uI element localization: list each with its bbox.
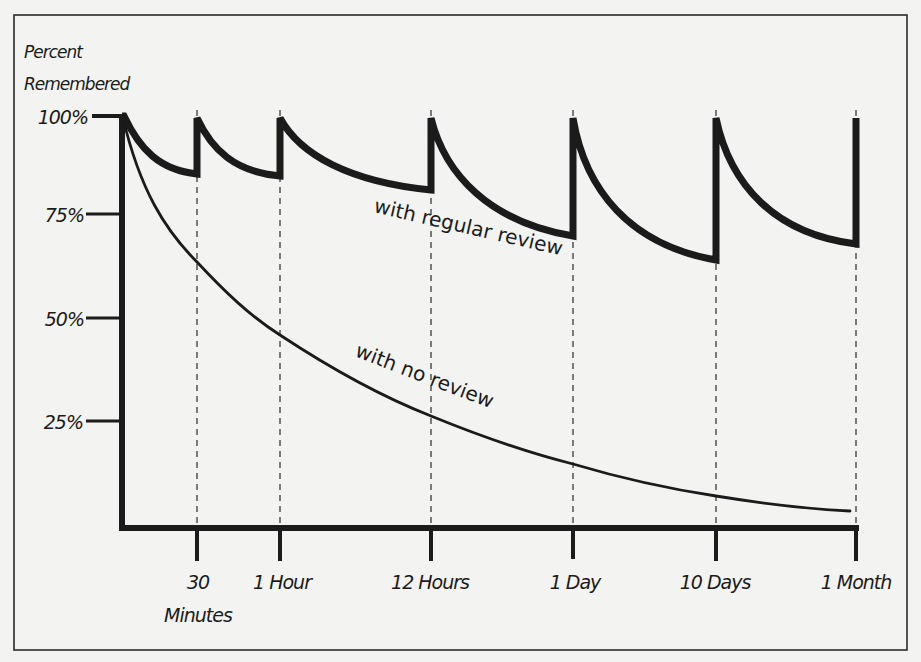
chart-frame: [14, 15, 907, 650]
x-label-12hours: 12 Hours: [391, 571, 470, 593]
x-label-1hour: 1 Hour: [253, 571, 313, 593]
y-axis-title-line1: Percent: [24, 42, 84, 62]
y-label-50: 50%: [45, 308, 84, 330]
y-label-25: 25%: [44, 411, 83, 433]
review-gridlines: [197, 110, 856, 528]
x-label-1day: 1 Day: [550, 571, 602, 593]
no-review-label: with no review: [352, 338, 497, 413]
x-label-30: 30: [187, 571, 210, 593]
forgetting-curve-chart: Percent Remembered 100% 75% 50% 25% 30 M…: [0, 0, 921, 662]
x-label-minutes: Minutes: [164, 604, 233, 626]
y-label-100: 100%: [38, 106, 88, 128]
x-label-1month: 1 Month: [821, 571, 892, 593]
x-label-10days: 10 Days: [680, 571, 752, 593]
y-axis-title-line2: Remembered: [24, 74, 131, 94]
y-label-75: 75%: [45, 204, 84, 226]
